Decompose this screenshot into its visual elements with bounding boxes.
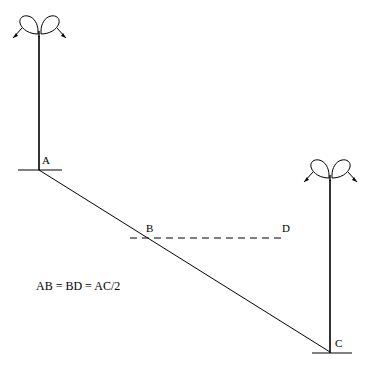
point-label-c: C: [335, 338, 342, 349]
point-label-d: D: [282, 223, 290, 234]
equation-annotation: AB = BD = AC/2: [36, 280, 120, 292]
lamp-left-icon: [13, 16, 66, 38]
lamp-right-icon: [304, 160, 357, 182]
point-label-b: B: [146, 223, 153, 234]
line-segment-ac: [39, 170, 330, 352]
point-label-a: A: [42, 155, 50, 166]
diagram-canvas: A B C D AB = BD = AC/2: [0, 0, 381, 373]
geometry-figure: [0, 0, 381, 373]
